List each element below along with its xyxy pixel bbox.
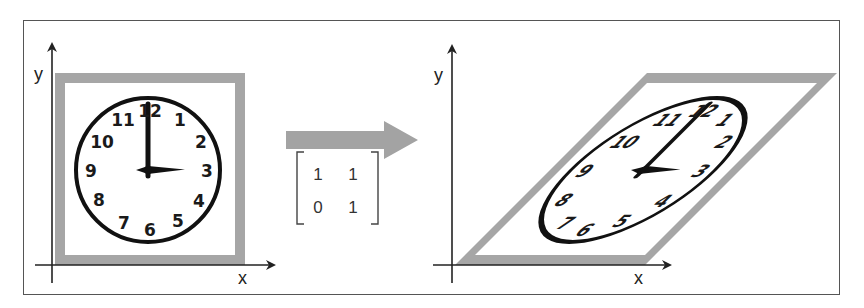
clock-number-12: 12 (138, 101, 162, 121)
matrix-entry-21: 0 (313, 198, 322, 217)
left-bracket (297, 152, 304, 224)
right-bracket (371, 152, 378, 224)
shear-transform-diagram: 12 1 2 3 4 5 6 7 8 9 10 11 y x 1 (0, 0, 864, 308)
clock: 12 1 2 3 4 5 6 7 8 9 10 11 (76, 98, 220, 242)
right-arrow-icon (286, 121, 418, 159)
matrix-entry-11: 1 (313, 165, 322, 184)
shear-matrix: 1 1 0 1 (297, 152, 378, 224)
right-panel: 12 1 2 3 4 5 6 7 8 9 10 11 y x (433, 46, 827, 288)
left-panel: 12 1 2 3 4 5 6 7 8 9 10 11 y x (34, 44, 274, 288)
clock-number-4: 4 (193, 191, 205, 211)
clock-number-5: 5 (172, 211, 184, 231)
clock-number-7: 7 (118, 213, 130, 233)
sheared-content: 12 1 2 3 4 5 6 7 8 9 10 11 (465, 78, 827, 260)
clock-number-11: 11 (111, 110, 135, 130)
clock-number-1: 1 (174, 110, 186, 130)
matrix-entry-22: 1 (348, 198, 357, 217)
clock-number-8: 8 (93, 190, 105, 210)
clock-number-2: 2 (195, 132, 207, 152)
y-axis-label: y (34, 64, 43, 84)
right-x-axis-label: x (634, 268, 643, 288)
clock-number-6: 6 (144, 220, 156, 240)
transform: 1 1 0 1 (286, 121, 418, 224)
right-y-axis-label: y (434, 65, 443, 85)
clock-number-3: 3 (201, 161, 213, 181)
x-axis-label: x (238, 268, 247, 288)
clock-number-10: 10 (90, 132, 114, 152)
matrix-entry-12: 1 (348, 165, 357, 184)
clock-number-9: 9 (85, 161, 97, 181)
